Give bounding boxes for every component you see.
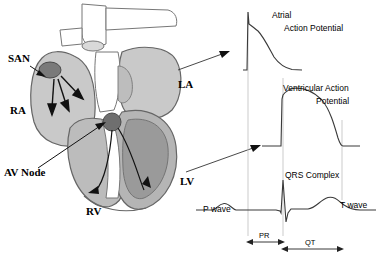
atrial-septum xyxy=(95,52,120,112)
ventricular-action-potential-trace: Ventricular Action Potential xyxy=(262,83,360,146)
aorta-vessel xyxy=(82,4,106,47)
ventricular-ap-label-line2: Potential xyxy=(316,96,349,106)
atrial-ap-label-line1: Atrial xyxy=(272,10,291,20)
vessel-lumen xyxy=(82,41,104,51)
connector-arrows xyxy=(178,51,261,172)
atrial-ap-label-line2: Action Potential xyxy=(284,23,343,33)
ventricular-ap-label-line1: Ventricular Action xyxy=(283,83,349,93)
label-san: SAN xyxy=(8,52,30,64)
figure-canvas: SAN RA LA AV Node LV RV Atrial Action xyxy=(0,0,379,263)
connector-atrium-to-ap xyxy=(178,54,222,70)
label-qrs-complex: QRS Complex xyxy=(285,170,340,180)
connector-ventricle-to-ap xyxy=(186,148,253,172)
label-la: LA xyxy=(178,78,193,90)
cardiac-conduction-figure: SAN RA LA AV Node LV RV Atrial Action xyxy=(0,0,379,263)
heart-diagram: SAN RA LA AV Node LV RV xyxy=(4,4,194,217)
label-ra: RA xyxy=(10,104,26,116)
label-rv: RV xyxy=(86,205,102,217)
label-lv: LV xyxy=(180,175,194,187)
ecg-trace: QRS Complex P wave T wave xyxy=(196,170,376,222)
label-qt-interval: QT xyxy=(305,238,316,247)
superior-vena-cava xyxy=(60,28,82,46)
alignment-guide-lines xyxy=(248,12,342,236)
atrial-action-potential-trace: Atrial Action Potential xyxy=(243,10,343,70)
interval-markers: PR QT xyxy=(246,231,344,252)
label-p-wave: P wave xyxy=(203,204,231,214)
pulmonary-artery-vessel xyxy=(106,8,177,30)
label-pr-interval: PR xyxy=(259,231,270,240)
label-t-wave: T wave xyxy=(340,200,368,210)
label-av-node: AV Node xyxy=(4,166,46,178)
